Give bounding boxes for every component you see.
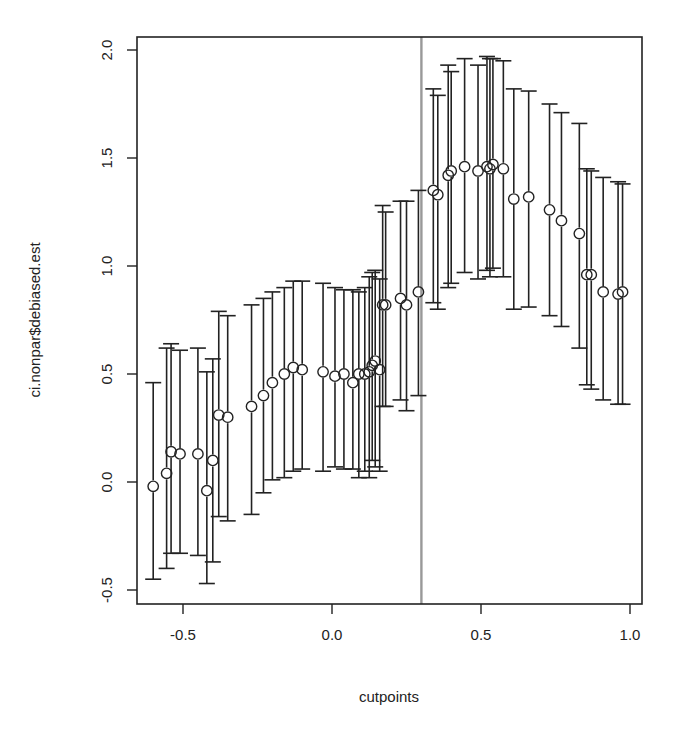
y-tick-label: -0.5 [98, 577, 115, 603]
x-axis-title: cutpoints [359, 688, 419, 705]
y-tick-label: 0.5 [98, 364, 115, 385]
y-tick-label: 0.0 [98, 472, 115, 493]
y-tick-label: 2.0 [98, 40, 115, 61]
x-tick-label: 1.0 [620, 626, 641, 643]
x-tick-label: 0.0 [322, 626, 343, 643]
y-tick-label: 1.5 [98, 148, 115, 169]
x-tick-label: -0.5 [170, 626, 196, 643]
y-tick-label: 1.0 [98, 256, 115, 277]
y-axis-title: ci.nonpar$debiased.est [26, 242, 43, 398]
x-tick-label: 0.5 [471, 626, 492, 643]
chart: -0.50.00.51.0 -0.50.00.51.01.52.0 cutpoi… [0, 0, 681, 738]
